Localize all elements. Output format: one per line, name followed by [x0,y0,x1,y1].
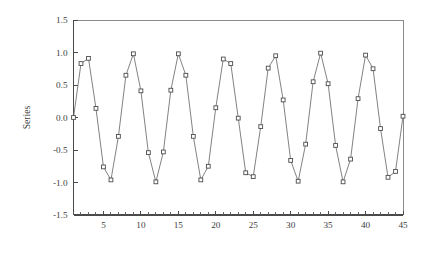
data-point-marker [102,165,106,169]
data-point-marker [146,151,150,155]
data-point-marker [289,159,293,163]
data-point-marker [221,57,225,61]
data-point-marker [371,67,375,71]
data-point-marker [214,106,218,110]
data-point-marker [379,127,383,131]
data-point-marker [94,107,98,111]
data-point-marker [334,144,338,148]
data-point-marker [386,175,390,179]
data-point-marker [364,53,368,57]
data-point-marker [72,116,76,120]
y-tick-label: 0.5 [56,80,68,90]
data-point-marker [244,171,248,175]
data-point-marker [87,56,91,60]
x-tick-label: 30 [286,220,296,230]
x-tick-label: 40 [361,220,371,230]
data-point-marker [109,178,113,182]
y-axis-title: Series [21,106,32,130]
chart-figure: 51015202530354045 -1.5-1.0-0.50.00.51.01… [0,0,421,264]
y-tick-label: -0.5 [53,145,68,155]
data-point-markers [72,51,405,184]
data-point-marker [154,180,158,184]
data-point-marker [274,54,278,58]
data-point-marker [296,179,300,183]
data-point-marker [206,164,210,168]
data-point-marker [132,52,136,56]
x-tick-label: 10 [136,220,146,230]
y-tick-label: 0.0 [56,113,68,123]
data-point-marker [124,73,128,77]
data-point-marker [304,142,308,146]
data-point-marker [266,66,270,70]
data-point-marker [356,97,360,101]
y-tick-label: 1.0 [56,48,68,58]
y-axis-tick-labels: -1.5-1.0-0.50.00.51.01.5 [53,15,68,220]
y-axis-title-text: Series [21,106,32,130]
data-point-marker [199,178,203,182]
y-tick-label: -1.5 [53,210,68,220]
x-tick-label: 35 [324,220,334,230]
data-point-marker [229,62,233,66]
y-tick-label: -1.0 [53,178,68,188]
data-point-marker [349,157,353,161]
y-tick-label: 1.5 [56,15,68,25]
x-axis-tick-labels: 51015202530354045 [101,220,408,230]
data-point-marker [401,114,405,118]
data-point-marker [236,116,240,120]
data-point-marker [169,88,173,92]
series-line-chart: 51015202530354045 -1.5-1.0-0.50.00.51.01… [0,0,421,264]
x-tick-label: 45 [398,220,408,230]
x-tick-label: 15 [174,220,184,230]
data-point-marker [259,125,263,129]
x-tick-label: 20 [211,220,221,230]
x-axis-ticks [74,211,404,216]
data-point-marker [319,51,323,55]
data-point-marker [394,170,398,174]
data-point-marker [341,180,345,184]
x-tick-label: 25 [249,220,259,230]
data-point-marker [184,73,188,77]
x-tick-label: 5 [101,220,106,230]
data-point-marker [161,150,165,154]
data-point-marker [311,80,315,84]
data-point-marker [176,52,180,56]
data-point-marker [139,89,143,93]
data-point-marker [281,98,285,102]
data-point-marker [79,62,83,66]
data-point-marker [117,134,121,138]
data-point-marker [251,175,255,179]
data-point-marker [326,82,330,86]
data-point-marker [191,134,195,138]
